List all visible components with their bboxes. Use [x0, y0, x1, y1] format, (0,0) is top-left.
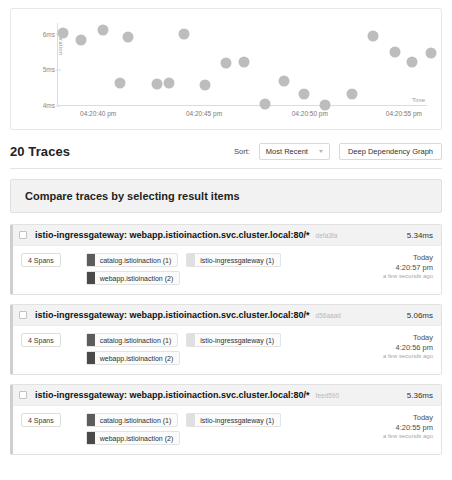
service-tag[interactable]: istio-ingressgateway (1): [186, 253, 281, 267]
scatter-point[interactable]: [57, 27, 68, 38]
trace-title[interactable]: istio-ingressgateway: webapp.istioinacti…: [35, 230, 310, 240]
service-tag[interactable]: istio-ingressgateway (1): [186, 413, 281, 427]
trace-result-card[interactable]: istio-ingressgateway: webapp.istioinacti…: [10, 304, 442, 375]
service-tag-row: catalog.istioinaction (1)istio-ingressga…: [86, 253, 282, 267]
service-tag-group: catalog.istioinaction (1)istio-ingressga…: [86, 333, 282, 365]
compare-traces-text: Compare traces by selecting result items: [25, 190, 240, 202]
service-color-swatch: [87, 272, 95, 284]
trace-count-label: 20 Traces: [10, 144, 70, 159]
service-color-swatch: [187, 334, 195, 346]
service-tag[interactable]: catalog.istioinaction (1): [86, 333, 179, 347]
service-tag-row: catalog.istioinaction (1)istio-ingressga…: [86, 413, 282, 427]
trace-card-body: 4 Spanscatalog.istioinaction (1)istio-in…: [13, 246, 441, 294]
span-count-badge: 4 Spans: [21, 253, 61, 267]
scatter-point[interactable]: [75, 34, 86, 45]
trace-duration: 5.34ms: [407, 231, 433, 240]
trace-title[interactable]: istio-ingressgateway: webapp.istioinacti…: [35, 390, 310, 400]
trace-timestamp-group: Today4:20:55 pma few seconds ago: [383, 413, 433, 445]
service-tag[interactable]: catalog.istioinaction (1): [86, 413, 179, 427]
x-axis-tick-label: 04:20:40 pm: [80, 110, 116, 117]
service-tag-group: catalog.istioinaction (1)istio-ingressga…: [86, 253, 282, 285]
service-tag-label: webapp.istioinaction (2): [100, 355, 174, 362]
service-color-swatch: [87, 432, 95, 444]
span-count-badge: 4 Spans: [21, 413, 61, 427]
scatter-point[interactable]: [406, 57, 417, 68]
results-toolbar: 20 Traces Sort: Most Recent Deep Depende…: [10, 139, 442, 169]
trace-day-label: Today: [413, 333, 433, 342]
trace-time-label: 4:20:57 pm: [395, 263, 433, 272]
service-tag-label: istio-ingressgateway (1): [200, 257, 274, 264]
scatter-point[interactable]: [200, 80, 211, 91]
service-tag[interactable]: webapp.istioinaction (2): [86, 431, 181, 445]
trace-time-label: 4:20:55 pm: [395, 423, 433, 432]
trace-id: d56aaad: [316, 312, 341, 319]
service-tag-label: istio-ingressgateway (1): [200, 417, 274, 424]
scatter-point[interactable]: [163, 77, 174, 88]
service-tag[interactable]: istio-ingressgateway (1): [186, 333, 281, 347]
trace-card-body: 4 Spanscatalog.istioinaction (1)istio-in…: [13, 326, 441, 374]
scatter-point[interactable]: [389, 47, 400, 58]
trace-result-card[interactable]: istio-ingressgateway: webapp.istioinacti…: [10, 224, 442, 295]
service-tag-row: webapp.istioinaction (2): [86, 351, 282, 365]
scatter-point[interactable]: [98, 25, 109, 36]
trace-search-results-page: Duration Time 6ms5ms4ms 04:20:40 pm04:20…: [0, 8, 452, 480]
service-tag-label: webapp.istioinaction (2): [100, 275, 174, 282]
compare-traces-banner: Compare traces by selecting result items: [10, 179, 442, 213]
service-color-swatch: [87, 334, 95, 346]
service-tag-label: catalog.istioinaction (1): [100, 257, 172, 264]
scatter-point[interactable]: [319, 100, 330, 111]
trace-card-header: istio-ingressgateway: webapp.istioinacti…: [13, 225, 441, 246]
service-tag-label: catalog.istioinaction (1): [100, 417, 172, 424]
x-axis-tick-label: 04:20:55 pm: [386, 110, 422, 117]
service-tag-label: webapp.istioinaction (2): [100, 435, 174, 442]
trace-card-header: istio-ingressgateway: webapp.istioinacti…: [13, 305, 441, 326]
scatter-point[interactable]: [367, 30, 378, 41]
scatter-point[interactable]: [346, 88, 357, 99]
scatter-point[interactable]: [239, 56, 250, 67]
trace-id: feed590: [316, 392, 340, 399]
service-tag[interactable]: webapp.istioinaction (2): [86, 351, 181, 365]
scatter-point[interactable]: [426, 48, 437, 59]
service-color-swatch: [87, 352, 95, 364]
x-axis-tick-label: 04:20:50 pm: [292, 110, 328, 117]
trace-duration: 5.06ms: [407, 311, 433, 320]
trace-timestamp-group: Today4:20:56 pma few seconds ago: [383, 333, 433, 365]
scatter-point[interactable]: [114, 77, 125, 88]
scatter-point[interactable]: [122, 31, 133, 42]
trace-card-body: 4 Spanscatalog.istioinaction (1)istio-in…: [13, 406, 441, 454]
service-tag-row: catalog.istioinaction (1)istio-ingressga…: [86, 333, 282, 347]
service-tag[interactable]: webapp.istioinaction (2): [86, 271, 181, 285]
trace-title[interactable]: istio-ingressgateway: webapp.istioinacti…: [35, 310, 310, 320]
trace-select-checkbox[interactable]: [19, 311, 27, 319]
service-tag[interactable]: catalog.istioinaction (1): [86, 253, 179, 267]
trace-relative-time-label: a few seconds ago: [383, 433, 433, 439]
scatter-point[interactable]: [298, 89, 309, 100]
trace-day-label: Today: [413, 253, 433, 262]
service-tag-row: webapp.istioinaction (2): [86, 431, 282, 445]
trace-duration: 5.36ms: [407, 391, 433, 400]
sort-select[interactable]: Most Recent: [259, 143, 330, 160]
sort-select-value: Most Recent: [266, 147, 308, 156]
trace-duration-scatter-chart: Duration Time 6ms5ms4ms 04:20:40 pm04:20…: [10, 8, 442, 130]
x-axis-title: Time: [412, 97, 425, 103]
service-tag-group: catalog.istioinaction (1)istio-ingressga…: [86, 413, 282, 445]
service-color-swatch: [87, 254, 95, 266]
deep-dependency-graph-button[interactable]: Deep Dependency Graph: [339, 143, 442, 160]
scatter-point[interactable]: [179, 29, 190, 40]
span-count-badge: 4 Spans: [21, 333, 61, 347]
trace-time-label: 4:20:56 pm: [395, 343, 433, 352]
trace-results-list: istio-ingressgateway: webapp.istioinacti…: [10, 224, 442, 455]
trace-day-label: Today: [413, 413, 433, 422]
y-axis-tick-label: 4ms: [27, 102, 55, 109]
service-color-swatch: [187, 414, 195, 426]
y-axis-tick-label: 6ms: [27, 30, 55, 37]
scatter-point[interactable]: [221, 57, 232, 68]
scatter-point[interactable]: [259, 99, 270, 110]
trace-result-card[interactable]: istio-ingressgateway: webapp.istioinacti…: [10, 384, 442, 455]
results-controls: Sort: Most Recent Deep Dependency Graph: [234, 143, 442, 160]
trace-select-checkbox[interactable]: [19, 231, 27, 239]
scatter-point[interactable]: [278, 75, 289, 86]
chart-plot-area: Duration Time 6ms5ms4ms 04:20:40 pm04:20…: [11, 9, 441, 129]
trace-select-checkbox[interactable]: [19, 391, 27, 399]
scatter-point[interactable]: [151, 79, 162, 90]
